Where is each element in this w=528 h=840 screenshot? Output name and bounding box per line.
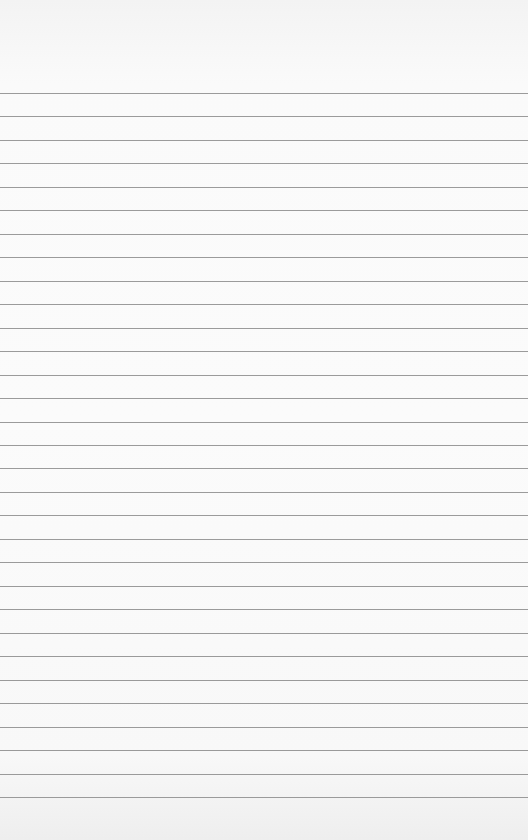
ruled-line (0, 703, 528, 704)
ruled-line (0, 398, 528, 399)
ruled-line (0, 656, 528, 657)
ruled-line (0, 210, 528, 211)
ruled-line (0, 375, 528, 376)
ruled-line (0, 680, 528, 681)
ruled-line (0, 281, 528, 282)
ruled-line (0, 609, 528, 610)
ruled-line (0, 492, 528, 493)
ruled-line (0, 351, 528, 352)
ruled-line (0, 468, 528, 469)
ruled-line (0, 163, 528, 164)
ruled-line (0, 774, 528, 775)
ruled-line (0, 422, 528, 423)
lined-paper (0, 0, 528, 840)
ruled-line (0, 750, 528, 751)
ruled-line (0, 727, 528, 728)
ruled-line (0, 140, 528, 141)
ruled-line (0, 187, 528, 188)
ruled-line (0, 328, 528, 329)
ruled-line (0, 234, 528, 235)
ruled-line (0, 515, 528, 516)
ruled-line (0, 586, 528, 587)
ruled-line (0, 116, 528, 117)
ruled-line (0, 445, 528, 446)
ruled-line (0, 304, 528, 305)
ruled-line (0, 539, 528, 540)
ruled-line (0, 93, 528, 94)
ruled-line (0, 257, 528, 258)
ruled-line (0, 562, 528, 563)
ruled-line (0, 633, 528, 634)
ruled-line (0, 797, 528, 798)
